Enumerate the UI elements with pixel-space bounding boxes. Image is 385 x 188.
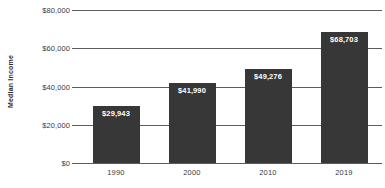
bar: $29,943 (93, 106, 140, 163)
bar: $49,276 (245, 69, 292, 163)
bar: $68,703 (321, 32, 368, 163)
bar-value-label: $68,703 (321, 35, 368, 44)
x-axis-tick-label: 2000 (162, 168, 222, 177)
y-axis-title: Median Income (0, 0, 22, 163)
plot-area: $29,943$41,990$49,276$68,703 (78, 10, 382, 163)
bar-value-label: $29,943 (93, 109, 140, 118)
y-axis-tick-label: $20,000 (24, 120, 70, 129)
bar-chart: Median Income $80,000$60,000$40,000$20,0… (0, 0, 385, 188)
x-axis-tick-label: 2019 (314, 168, 374, 177)
y-axis-tick-label: $40,000 (24, 82, 70, 91)
bar-value-label: $41,990 (169, 86, 216, 95)
gridline (78, 10, 382, 11)
gridline (78, 163, 382, 164)
x-axis-tick-label: 2010 (238, 168, 298, 177)
y-axis-title-label: Median Income (8, 55, 15, 108)
bar-value-label: $49,276 (245, 72, 292, 81)
x-axis-tick-label: 1990 (86, 168, 146, 177)
y-axis-tick-label: $80,000 (24, 6, 70, 15)
y-axis-tick-label: $60,000 (24, 44, 70, 53)
bar: $41,990 (169, 83, 216, 163)
y-axis-tick-label: $0 (24, 159, 70, 168)
